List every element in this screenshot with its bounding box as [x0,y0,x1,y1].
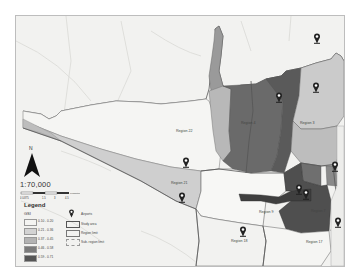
airport-pin-icon[interactable] [239,226,247,237]
svg-text:Kilometers: Kilometers [70,192,80,195]
legend-swatch [24,246,37,253]
region-label: Region 18 [231,239,247,243]
region-label: Region 17 [306,240,322,244]
svg-text:4.5: 4.5 [65,196,69,200]
legend-symbol-label: Airports [81,212,92,216]
region-label: Region 21 [171,181,187,185]
legend-swatch [24,255,37,262]
region-label: Region 4 [241,121,255,125]
airport-pin-icon[interactable] [178,192,186,203]
north-arrow: N [21,145,43,179]
map-legend: Legend GSI 0.10 - 0.20 0.21 - 0.36 0.37 … [20,202,105,262]
svg-text:1.5: 1.5 [42,196,46,200]
airport-pin-icon[interactable] [334,217,342,228]
legend-class-label: 0.10 - 0.20 [38,219,53,223]
legend-swatch [24,228,37,235]
legend-title: Legend [24,202,45,208]
airport-pin-icon[interactable] [275,92,283,103]
legend-swatch [24,237,37,244]
legend-class-label: 0.46 - 0.58 [38,246,53,250]
airport-pin-icon[interactable] [313,33,321,44]
airport-pin-icon [68,209,75,218]
legend-symbol-label: Region limit [81,231,98,235]
north-arrow-icon [21,151,43,179]
airport-pin-icon[interactable] [312,82,320,93]
scale-ratio: 1:70,000 [20,180,51,189]
legend-swatch [24,219,37,226]
region-label: Region 3 [300,121,314,125]
svg-text:0 0.875: 0 0.875 [20,196,29,200]
region-label: Region 22 [176,129,192,133]
legend-class-label: 0.21 - 0.36 [38,228,53,232]
svg-text:3: 3 [54,196,56,200]
subregion-limit-outline [66,239,80,246]
legend-symbol-label: Sub- region limit [81,240,104,244]
region-label: Region 9 [259,210,273,214]
legend-gsi-label: GSI [24,211,31,216]
airport-pin-icon[interactable] [302,189,310,200]
scale-bar: 0 0.875 1.5 3 4.5 Kilometers [20,191,80,201]
legend-symbol-label: Study area [81,222,96,226]
legend-class-label: 0.37 - 0.45 [38,237,53,241]
region-limit-outline [66,230,80,237]
study-area-outline [66,221,80,228]
legend-class-label: 0.59 - 0.71 [38,255,53,259]
airport-pin-icon[interactable] [182,157,190,168]
region-label: Region 7 [311,209,325,213]
airport-pin-icon[interactable] [331,161,339,172]
